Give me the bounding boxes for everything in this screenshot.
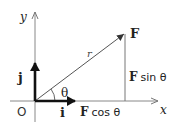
origin-label: O [17,106,26,118]
x-axis-label: x [160,104,167,116]
horizontal-component-label: F cos θ [80,106,120,118]
vertical-component-prefix: F [129,70,138,84]
y-axis-label: y [20,11,27,23]
horizontal-component-suffix: cos θ [92,106,121,119]
vertical-component-label: F sin θ [129,71,167,83]
angle-arc [51,89,55,101]
horizontal-component-prefix: F [80,105,89,119]
unit-vector-j-label: j [18,71,23,84]
unit-vector-i-label: i [60,106,65,119]
force-vector [35,34,124,101]
angle-label: θ [61,87,68,99]
magnitude-label: r [87,49,92,59]
vertical-component-suffix: sin θ [141,71,167,84]
force-label: F [130,27,139,40]
